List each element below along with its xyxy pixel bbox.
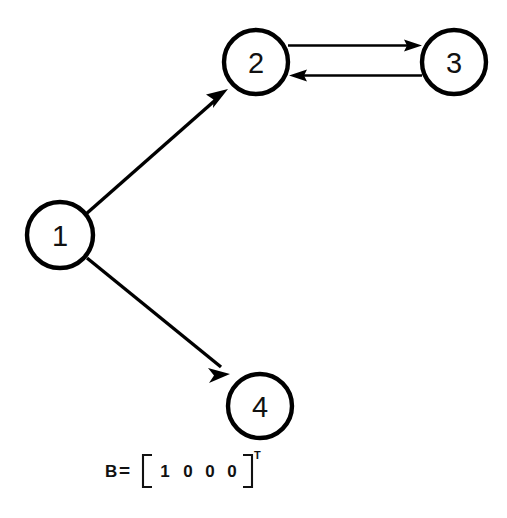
matrix-formula: B = 1 0 0 0 T — [105, 449, 261, 487]
equals-sign: = — [119, 460, 130, 481]
matrix-entry-2: 0 — [205, 462, 214, 481]
right-bracket — [243, 455, 252, 487]
node-1[interactable]: 1 — [27, 202, 93, 268]
node-2[interactable]: 2 — [224, 30, 288, 94]
edge-2-to-3 — [288, 40, 422, 52]
edge-1-to-4-arrowhead — [208, 368, 230, 383]
matrix-entry-0: 1 — [160, 462, 169, 481]
matrix-entry-3: 0 — [227, 462, 236, 481]
node-4-label: 4 — [252, 391, 268, 423]
edge-1-to-2-line — [86, 96, 220, 214]
graph-figure: 1 2 3 4 B = 1 0 0 0 T — [0, 0, 507, 518]
left-bracket — [143, 455, 152, 487]
node-1-label: 1 — [52, 220, 68, 252]
node-3-label: 3 — [446, 47, 462, 79]
edge-1-to-4-line — [87, 258, 221, 367]
edge-3-to-2 — [289, 70, 422, 82]
node-2-label: 2 — [248, 47, 264, 79]
edge-1-to-4 — [87, 258, 230, 383]
matrix-entry-1: 0 — [183, 462, 192, 481]
matrix-name-label: B — [105, 462, 117, 481]
node-4[interactable]: 4 — [228, 374, 292, 438]
node-3[interactable]: 3 — [422, 30, 486, 94]
graph-canvas: 1 2 3 4 B = 1 0 0 0 T — [0, 0, 507, 518]
edge-1-to-2 — [86, 89, 228, 214]
transpose-superscript: T — [254, 449, 261, 461]
